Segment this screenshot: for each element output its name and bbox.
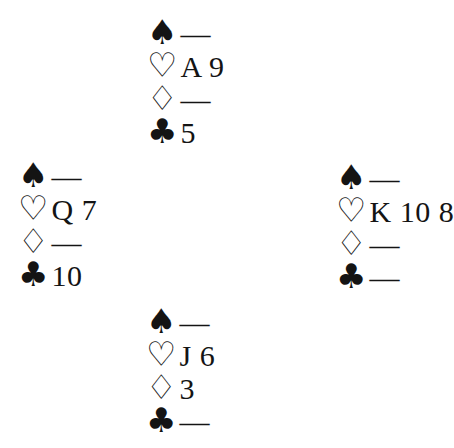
north-clubs-holding: 5 <box>180 116 196 149</box>
west-diamonds-holding: — <box>51 226 82 259</box>
north-hearts-holding: A 9 <box>180 50 224 83</box>
south-spades-holding: — <box>179 306 210 339</box>
hand-east: ♠— ♡K 10 8 ♢— ♣— <box>336 161 454 293</box>
west-hearts-holding: Q 7 <box>51 193 97 226</box>
club-icon: ♣ <box>146 404 176 437</box>
club-icon: ♣ <box>18 258 48 291</box>
hand-south: ♠— ♡J 6 ♢3 ♣— <box>146 305 215 437</box>
east-diamonds-holding: — <box>369 228 400 261</box>
hand-north: ♠— ♡A 9 ♢— ♣5 <box>147 16 225 148</box>
east-clubs-row: ♣— <box>336 260 454 293</box>
hand-west: ♠— ♡Q 7 ♢— ♣10 <box>18 159 97 291</box>
south-hearts-holding: J 6 <box>179 339 215 372</box>
north-clubs-row: ♣5 <box>147 115 225 148</box>
south-clubs-holding: — <box>179 405 210 438</box>
club-icon: ♣ <box>336 260 366 293</box>
south-diamonds-holding: 3 <box>179 372 195 405</box>
club-icon: ♣ <box>147 115 177 148</box>
east-spades-holding: — <box>369 162 400 195</box>
east-clubs-holding: — <box>369 261 400 294</box>
west-spades-holding: — <box>51 160 82 193</box>
south-clubs-row: ♣— <box>146 404 215 437</box>
west-clubs-holding: 10 <box>51 259 82 292</box>
west-clubs-row: ♣10 <box>18 258 97 291</box>
north-spades-holding: — <box>180 17 211 50</box>
east-hearts-holding: K 10 8 <box>369 195 454 228</box>
north-diamonds-holding: — <box>180 83 211 116</box>
